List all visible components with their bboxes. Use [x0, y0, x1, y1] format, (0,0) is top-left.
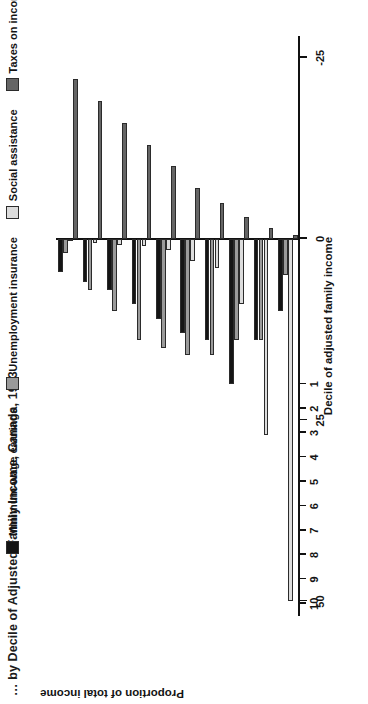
category-axis-tick-label: 10 — [308, 598, 320, 610]
bar — [58, 239, 63, 272]
legend-label: Unemployment insurance — [7, 237, 19, 371]
value-axis-tick — [300, 238, 307, 240]
bar — [112, 239, 117, 312]
plot-area: 50250-2512345678910 — [56, 36, 300, 616]
bar — [68, 239, 73, 241]
bar — [63, 239, 68, 254]
category-axis-tick-label: 1 — [308, 381, 320, 387]
rotated-figure-wrapper: … by Decile of Adjusted Family Income, C… — [0, 0, 368, 704]
bar — [171, 167, 176, 240]
bar — [107, 239, 112, 290]
bar — [264, 239, 269, 435]
y-axis-title: Proportion of total income — [0, 688, 234, 700]
bar — [190, 239, 195, 261]
bar — [195, 188, 200, 239]
legend-swatch-social-assistance — [6, 206, 19, 219]
bar — [161, 239, 166, 348]
value-axis-tick — [300, 419, 307, 421]
category-axis-tick — [300, 529, 306, 531]
bar — [283, 239, 288, 275]
category-axis-tick — [300, 432, 306, 434]
chart-figure: … by Decile of Adjusted Family Income, C… — [0, 0, 368, 704]
bar — [259, 239, 264, 341]
chart-legend: Minimum-wage earningsUnemployment insura… — [6, 0, 19, 554]
bar — [73, 80, 78, 240]
category-axis-tick — [300, 480, 306, 482]
bar — [142, 239, 147, 246]
bar — [156, 239, 161, 319]
bar — [210, 239, 215, 355]
bar — [229, 239, 234, 384]
bar — [293, 235, 298, 239]
bar — [215, 239, 220, 268]
category-axis-tick — [300, 505, 306, 507]
legend-item: Taxes on income — [6, 0, 19, 91]
category-axis-tick-label: 6 — [308, 503, 320, 509]
bar — [147, 145, 152, 239]
bar — [132, 239, 137, 304]
bar — [239, 239, 244, 304]
category-axis-tick — [300, 383, 306, 385]
legend-label: Social assistance — [7, 109, 19, 201]
category-axis-tick — [300, 456, 306, 458]
category-axis-tick-label: 9 — [308, 576, 320, 582]
bar — [269, 228, 274, 239]
category-axis-tick-label: 3 — [308, 430, 320, 436]
bar — [278, 239, 283, 312]
bar — [166, 239, 171, 250]
legend-swatch-taxes-on-income — [6, 78, 19, 91]
bar — [122, 123, 127, 239]
bar — [117, 239, 122, 245]
bar — [234, 239, 239, 341]
value-axis-tick — [300, 600, 307, 602]
value-axis-tick — [300, 56, 307, 58]
bar — [88, 239, 93, 290]
category-axis-tick — [300, 602, 306, 604]
category-axis-tick — [300, 578, 306, 580]
legend-label: Minimum-wage earnings — [7, 408, 19, 536]
bar — [205, 239, 210, 341]
legend-swatch-unemployment-insurance — [6, 377, 19, 390]
bar — [83, 239, 88, 283]
category-axis-tick-label: 2 — [308, 406, 320, 412]
category-axis-tick-label: 5 — [308, 479, 320, 485]
bar — [180, 239, 185, 333]
legend-swatch-minimum-wage — [6, 541, 19, 554]
bar — [98, 101, 103, 239]
legend-item: Minimum-wage earnings — [6, 408, 19, 554]
category-axis-tick — [300, 407, 306, 409]
category-axis-tick-label: 4 — [308, 454, 320, 460]
bar — [137, 239, 142, 341]
bar — [244, 217, 249, 239]
category-axis-tick-label: 7 — [308, 528, 320, 534]
x-axis-title: Decile of adjusted family income — [322, 36, 334, 616]
legend-label: Taxes on income — [7, 0, 19, 73]
category-axis-tick-label: 8 — [308, 552, 320, 558]
legend-item: Unemployment insurance — [6, 237, 19, 389]
bar — [288, 239, 293, 602]
bar — [254, 239, 259, 341]
category-axis-tick — [300, 554, 306, 556]
legend-item: Social assistance — [6, 109, 19, 219]
bar — [185, 239, 190, 355]
bar — [220, 203, 225, 239]
bar — [93, 239, 98, 243]
